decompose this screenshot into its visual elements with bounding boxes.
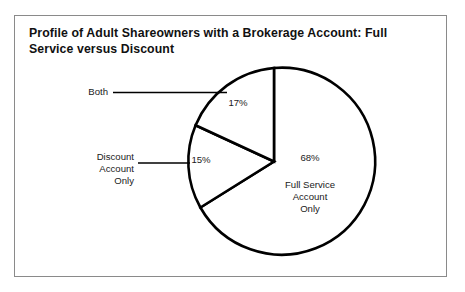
- value-label-both-percent: 17%: [218, 97, 258, 109]
- value-label-discount-percent: 15%: [181, 154, 221, 166]
- label-full-service-account-only: Full Service Account Only: [272, 179, 348, 216]
- label-both: Both: [48, 86, 108, 98]
- pie-chart-area: Both Discount Account Only 17% 15% 68% F…: [0, 0, 465, 292]
- label-discount-account-only: Discount Account Only: [44, 151, 134, 188]
- value-label-full-service-percent: 68%: [288, 152, 332, 164]
- figure-container: Profile of Adult Shareowners with a Brok…: [0, 0, 465, 292]
- pie-chart-svg: [0, 0, 465, 292]
